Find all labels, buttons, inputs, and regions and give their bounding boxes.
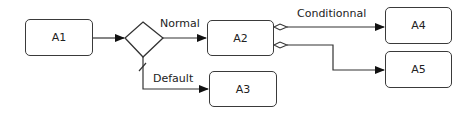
- task-a4[interactable]: A4: [385, 7, 452, 44]
- task-a2[interactable]: A2: [207, 20, 274, 56]
- task-a3[interactable]: A3: [209, 71, 277, 107]
- edge-a2-a5: [287, 45, 384, 70]
- task-label: A2: [233, 32, 248, 45]
- gateway-diamond: [125, 22, 163, 57]
- task-a1[interactable]: A1: [25, 19, 93, 56]
- edge-label-normal: Normal: [160, 17, 200, 30]
- edge-label-conditional: Conditionnal: [297, 7, 366, 20]
- task-a5[interactable]: A5: [385, 51, 452, 88]
- task-label: A5: [411, 63, 426, 76]
- task-label: A4: [411, 19, 426, 32]
- conditional-diamond-icon: [274, 24, 287, 30]
- task-label: A3: [236, 83, 251, 96]
- edge-label-default: Default: [153, 72, 193, 85]
- task-label: A1: [52, 31, 67, 44]
- conditional-diamond-icon: [274, 42, 287, 48]
